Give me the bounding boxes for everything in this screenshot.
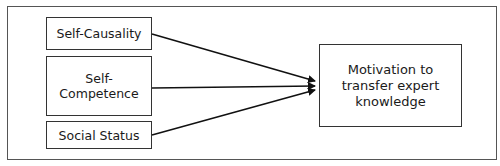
edges-layer	[0, 0, 500, 166]
edge-self-competence	[152, 86, 315, 88]
edge-social-status	[152, 90, 315, 135]
edge-self-causality	[152, 34, 315, 81]
